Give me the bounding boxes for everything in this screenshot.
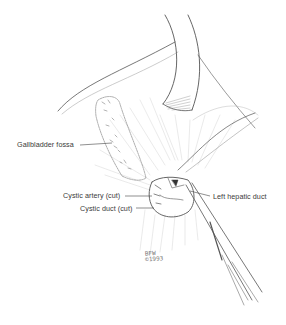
artist-signature: BFW ©1993 bbox=[145, 249, 164, 263]
label-left-hepatic-duct: Left hepatic duct bbox=[213, 193, 267, 200]
label-gallbladder-fossa: Gallbladder fossa bbox=[17, 141, 74, 148]
label-cystic-artery: Cystic artery (cut) bbox=[63, 192, 120, 199]
label-cystic-duct: Cystic duct (cut) bbox=[80, 205, 132, 212]
signature-year: ©1993 bbox=[145, 256, 163, 264]
label-leader-lines bbox=[0, 0, 286, 325]
illustration-canvas: Gallbladder fossa Cystic artery (cut) Cy… bbox=[0, 0, 286, 325]
